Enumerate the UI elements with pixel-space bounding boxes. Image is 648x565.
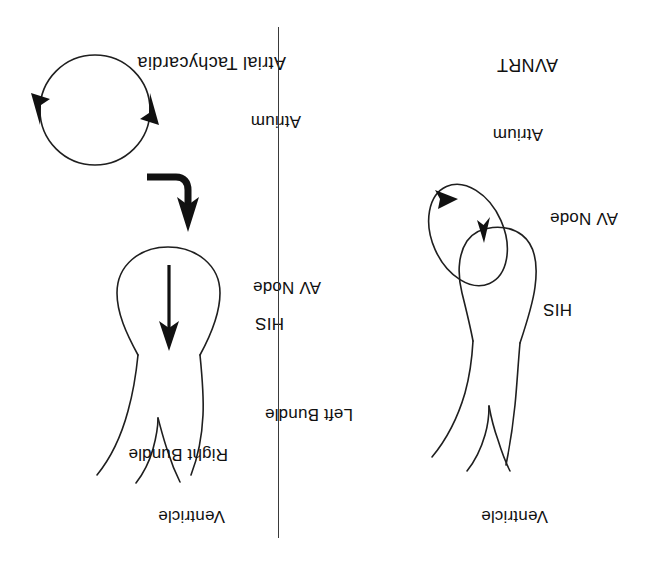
atrial-loop-arrowhead-left <box>140 93 159 125</box>
at-label-ventricle: Ventricle <box>158 506 225 526</box>
panel-divider <box>278 27 279 538</box>
at-label-atrium: Atrium <box>251 111 301 131</box>
his-bundle-right-wall <box>432 341 473 457</box>
panel-atrial-tachycardia: Atrial Tachycardia Ventricle Right Bundl… <box>0 0 324 565</box>
his-bundle-left-wall <box>506 343 520 465</box>
avnrt-conduction-diagram <box>324 0 648 565</box>
avnrt-reentry-loop <box>414 172 523 298</box>
reentry-arrowhead-up <box>477 217 490 243</box>
bundle-branch-fork <box>467 406 489 471</box>
panel-avnrt-title: AVNRT <box>497 55 558 75</box>
reentry-arrowhead-down <box>435 190 458 209</box>
figure-canvas: AVNRT Ventricle HIS AV Node Atrium <box>0 0 648 565</box>
panel-atrial-tachycardia-title: Atrial Tachycardia <box>137 53 286 73</box>
avnrt-label-his: HIS <box>543 299 572 319</box>
rotated-figure-content: AVNRT Ventricle HIS AV Node Atrium <box>0 0 648 565</box>
his-conduction-arrow <box>159 265 179 351</box>
at-label-his: HIS <box>255 313 284 333</box>
at-label-right-bundle: Right Bundle <box>128 444 228 464</box>
avnrt-label-atrium: Atrium <box>493 124 543 144</box>
panel-avnrt: AVNRT Ventricle HIS AV Node Atrium <box>324 0 648 565</box>
at-label-av-node: AV Node <box>253 277 321 297</box>
atrium-to-av-node-arrow <box>147 177 199 232</box>
avnrt-label-av-node: AV Node <box>550 208 618 228</box>
avnrt-label-ventricle: Ventricle <box>481 506 548 526</box>
